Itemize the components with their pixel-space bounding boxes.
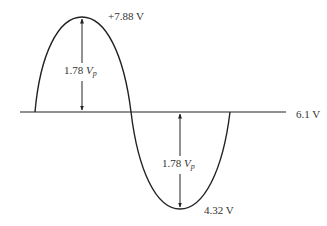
- dc-level-label: 6.1 V: [296, 108, 320, 120]
- negative-peak-label: 4.32 V: [204, 204, 234, 216]
- sine-waveform: [35, 17, 230, 209]
- positive-peak-label: +7.88 V: [108, 10, 144, 22]
- lower-amplitude-symbol: V: [184, 157, 191, 169]
- lower-amplitude-value: 1.78: [162, 157, 181, 169]
- upper-amplitude-label: 1.78 Vp: [64, 63, 97, 81]
- upper-amplitude-symbol: V: [86, 64, 93, 76]
- lower-amplitude-subscript: p: [191, 162, 195, 171]
- lower-amplitude-label: 1.78 Vp: [162, 156, 195, 174]
- upper-amplitude-value: 1.78: [64, 64, 83, 76]
- upper-amplitude-subscript: p: [93, 69, 97, 78]
- waveform-diagram: [0, 0, 327, 226]
